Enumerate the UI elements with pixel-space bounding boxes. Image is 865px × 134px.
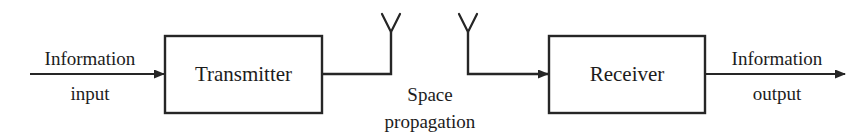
block-diagram: Transmitter Receiver Information input I… bbox=[0, 0, 865, 134]
transmit-antenna-icon bbox=[382, 14, 400, 32]
space-propagation-label-line1: Space bbox=[360, 85, 500, 104]
transmitter-label: Transmitter bbox=[165, 64, 322, 85]
receiver-label: Receiver bbox=[549, 64, 705, 85]
information-input-label-line1: Information bbox=[20, 49, 160, 68]
space-propagation-label-line2: propagation bbox=[360, 112, 500, 131]
information-output-label-line1: Information bbox=[707, 49, 847, 68]
information-output-label-line2: output bbox=[707, 84, 847, 103]
information-input-label-line2: input bbox=[20, 84, 160, 103]
receive-antenna-icon bbox=[459, 14, 477, 32]
transmitter-antenna-feed bbox=[322, 32, 391, 74]
receiver-antenna-feed bbox=[468, 32, 548, 74]
